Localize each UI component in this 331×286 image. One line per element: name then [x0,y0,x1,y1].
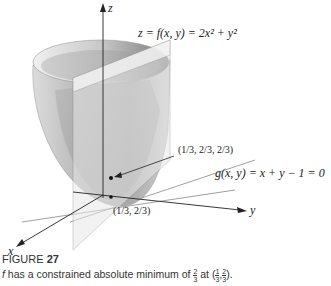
constraint-equation: g(x, y) = x + y − 1 = 0 [215,166,325,181]
surface-equation: z = f(x, y) = 2x² + y² [138,26,237,41]
point-2d-label: (1/3, 2/3) [113,205,150,216]
constrained-minimum-point [109,176,113,180]
xy-point [109,195,113,199]
caption-body: has a constrained absolute minimum of [5,268,194,280]
caption-at: at ( [197,268,215,280]
figure-title-prefix: FIGURE [2,253,44,265]
point-3d-label: (1/3, 2/3, 2/3) [178,144,233,155]
y-axis-label: y [250,203,255,218]
figure-title: FIGURE 27 [2,253,59,265]
caption-end: ). [226,268,232,280]
z-axis-label: z [108,1,113,16]
figure-caption: f has a constrained absolute minimum of … [2,268,233,283]
point-x-fraction: 13 [215,268,219,283]
figure-number: 27 [47,253,59,265]
